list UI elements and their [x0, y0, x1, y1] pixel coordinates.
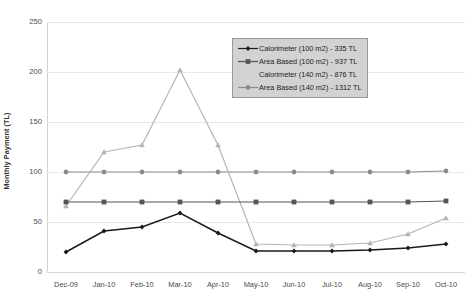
data-point [178, 200, 183, 205]
legend-item-1[interactable]: Area Based (100 m2) - 937 TL [237, 55, 361, 68]
y-tick-200: 200 [8, 68, 42, 76]
data-point [443, 215, 449, 220]
data-point [444, 169, 449, 174]
chart-figure: Monthly Payment (TL) 050100150200250 Dec… [0, 0, 472, 308]
y-tick-100: 100 [8, 168, 42, 176]
legend-item-label: Area Based (100 m2) - 937 TL [259, 56, 357, 67]
data-point [139, 142, 145, 147]
data-point [406, 246, 411, 251]
data-point [177, 67, 183, 72]
data-point [140, 170, 145, 175]
data-point [254, 249, 259, 254]
legend-item-label: Calorimeter (100 m2) - 335 TL [259, 43, 357, 54]
y-axis-tick-labels: 050100150200250 [8, 22, 42, 272]
series-1 [64, 199, 449, 205]
x-axis-tick-labels: Dec-09Jan-10Feb-10Mar-10Apr-10May-10Jun-… [47, 280, 465, 294]
data-point [330, 170, 335, 175]
data-point [216, 170, 221, 175]
data-point [368, 200, 373, 205]
data-point [254, 170, 259, 175]
data-point [102, 200, 107, 205]
series-3 [64, 169, 449, 175]
data-point [140, 200, 145, 205]
data-point [215, 142, 221, 147]
data-point [140, 225, 145, 230]
triangle-marker-icon [237, 69, 259, 80]
data-point [292, 170, 297, 175]
data-point [368, 248, 373, 253]
chart-legend: Calorimeter (100 m2) - 335 TLArea Based … [232, 38, 368, 98]
data-point [330, 249, 335, 254]
y-tick-150: 150 [8, 118, 42, 126]
legend-item-0[interactable]: Calorimeter (100 m2) - 335 TL [237, 42, 361, 55]
circle-marker-icon [237, 82, 259, 93]
data-point [406, 170, 411, 175]
data-point [292, 249, 297, 254]
x-tick-oct-10: Oct-10 [421, 280, 471, 290]
data-point [102, 170, 107, 175]
data-point [406, 200, 411, 205]
legend-item-label: Calorimeter (140 m2) - 876 TL [259, 69, 357, 80]
data-point [444, 242, 449, 247]
diamond-marker-icon [237, 43, 259, 54]
data-point [368, 170, 373, 175]
legend-item-2[interactable]: Calorimeter (140 m2) - 876 TL [237, 68, 361, 81]
series-0 [64, 211, 449, 255]
y-tick-0: 0 [8, 268, 42, 276]
square-marker-icon [237, 56, 259, 67]
y-tick-50: 50 [8, 218, 42, 226]
data-point [330, 200, 335, 205]
legend-item-label: Area Based (140 m2) - 1312 TL [259, 82, 361, 93]
data-point [64, 200, 69, 205]
y-tick-250: 250 [8, 18, 42, 26]
data-point [444, 199, 449, 204]
data-point [254, 200, 259, 205]
data-point [178, 170, 183, 175]
data-point [64, 170, 69, 175]
data-point [216, 200, 221, 205]
data-point [292, 200, 297, 205]
legend-item-3[interactable]: Area Based (140 m2) - 1312 TL [237, 81, 361, 94]
